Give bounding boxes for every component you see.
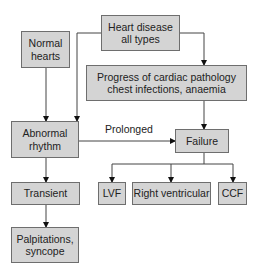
node-right-ventricular: Right ventricular — [132, 182, 211, 205]
node-failure: Failure — [175, 129, 229, 153]
node-ccf: CCF — [218, 182, 247, 205]
node-abnormal-rhythm: Abnormal rhythm — [11, 121, 79, 158]
edge-label-prolonged: Prolonged — [105, 123, 153, 135]
node-transient: Transient — [11, 182, 80, 205]
node-heart-disease: Heart disease all types — [101, 15, 180, 51]
node-palpitations-syncope: Palpitations, syncope — [11, 227, 79, 263]
node-progress-cardiac-pathology: Progress of cardiac pathology chest infe… — [86, 65, 247, 101]
node-lvf: LVF — [98, 182, 126, 205]
node-normal-hearts: Normal hearts — [21, 31, 70, 68]
